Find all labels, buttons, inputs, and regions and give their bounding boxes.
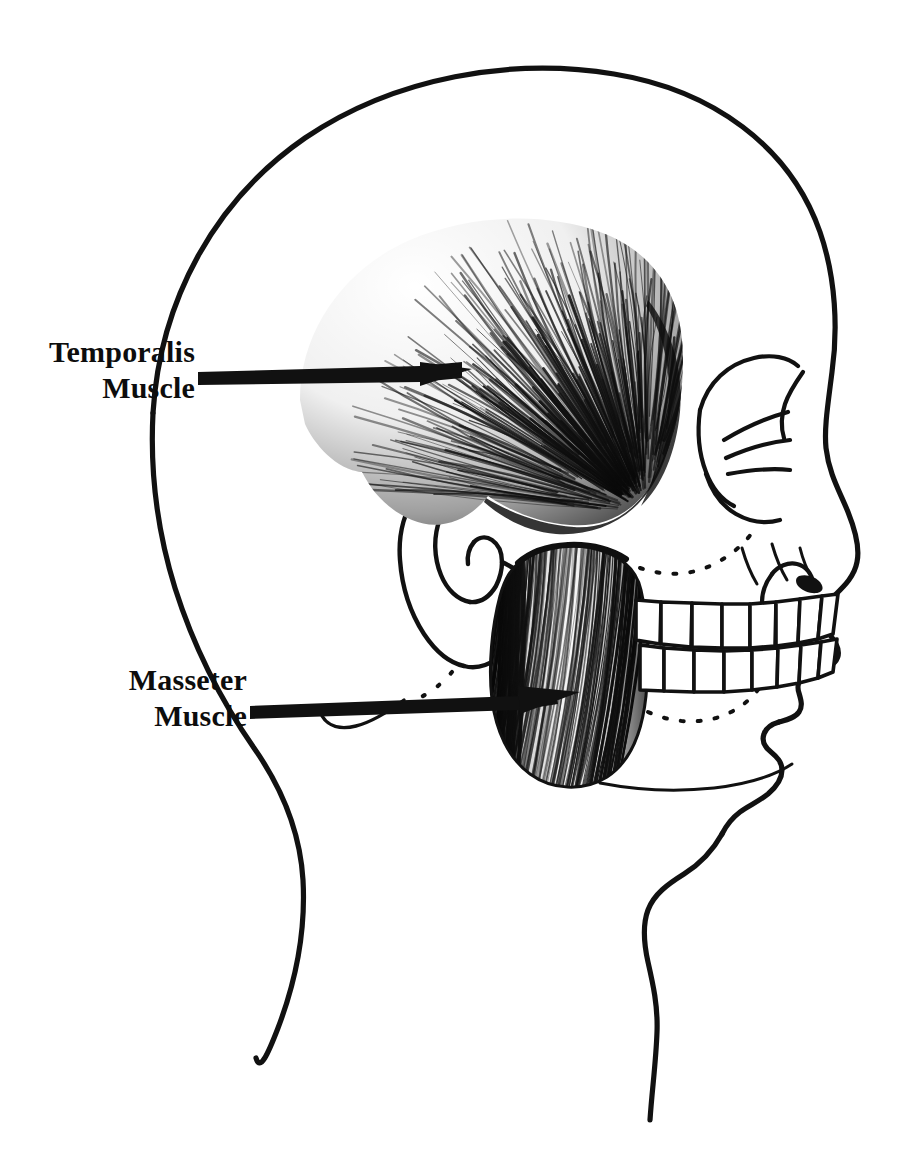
jaw-line — [600, 764, 792, 790]
temporalis-label-line2: Muscle — [102, 371, 195, 404]
masseter-muscle-body — [464, 536, 650, 808]
temporalis-label-line1: Temporalis — [49, 335, 195, 368]
upper-teeth-row — [636, 594, 838, 648]
head-anatomy-illustration: Temporalis Muscle Masseter Muscle — [0, 0, 919, 1167]
masseter-label-line2: Muscle — [154, 699, 247, 732]
zygomatic-dotted-line — [640, 527, 756, 574]
masseter-label-line1: Masseter — [129, 663, 247, 696]
masseter-label: Masseter Muscle — [129, 663, 247, 732]
mastoid-dotted-line — [410, 672, 452, 702]
temporalis-label: Temporalis Muscle — [49, 335, 195, 404]
orbit-eye-socket — [699, 356, 803, 522]
diagram-canvas: Temporalis Muscle Masseter Muscle — [0, 0, 919, 1167]
